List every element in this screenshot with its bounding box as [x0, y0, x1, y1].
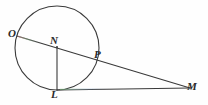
geometry-canvas	[0, 0, 208, 105]
point-label-n: N	[50, 35, 58, 46]
point-label-p: P	[94, 49, 101, 60]
geometry-diagram: O N P L M	[0, 0, 208, 105]
vertex-dot-n	[56, 46, 58, 48]
secant-line-om	[17, 36, 190, 88]
point-label-l: L	[51, 89, 58, 100]
scan-fringe-near-o	[18, 36, 40, 43]
point-label-o: O	[8, 28, 16, 39]
scan-fringe-near-l	[60, 89, 110, 90]
point-label-m: M	[187, 81, 197, 92]
